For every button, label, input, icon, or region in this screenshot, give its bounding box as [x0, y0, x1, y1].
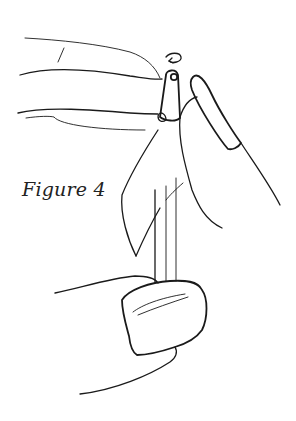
bead-cap — [158, 70, 180, 121]
figure-caption: Figure 4 — [22, 178, 106, 200]
figure-page: Figure 4 — [0, 0, 296, 421]
pin-wire — [155, 178, 176, 282]
left-finger-bottom — [18, 109, 158, 130]
hand-illustration — [0, 0, 296, 421]
left-finger-top — [20, 38, 162, 79]
left-finger-curve — [122, 130, 183, 256]
rotation-arrow-icon — [166, 53, 181, 63]
thumb — [55, 276, 207, 394]
right-index-finger — [180, 76, 280, 228]
